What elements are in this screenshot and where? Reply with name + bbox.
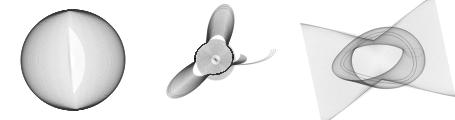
figure-star-rosette xyxy=(156,0,280,99)
figure-twisted-torus xyxy=(301,0,455,120)
figure-sphere-ring xyxy=(18,6,129,113)
parametric-figures-canvas xyxy=(0,0,455,120)
figure-panel xyxy=(0,0,455,120)
